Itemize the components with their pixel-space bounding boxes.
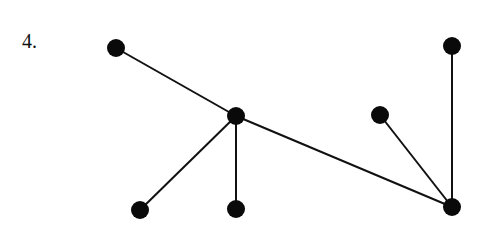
node-A bbox=[107, 39, 125, 57]
node-G bbox=[443, 198, 461, 216]
edge-B-C bbox=[140, 116, 236, 210]
edge-B-G bbox=[236, 116, 452, 207]
tree-graph bbox=[0, 0, 481, 232]
edge-E-G bbox=[380, 115, 452, 207]
node-C bbox=[131, 201, 149, 219]
node-B bbox=[227, 107, 245, 125]
graph-edges bbox=[116, 46, 452, 210]
node-F bbox=[443, 37, 461, 55]
node-E bbox=[371, 106, 389, 124]
node-D bbox=[227, 200, 245, 218]
edge-A-B bbox=[116, 48, 236, 116]
